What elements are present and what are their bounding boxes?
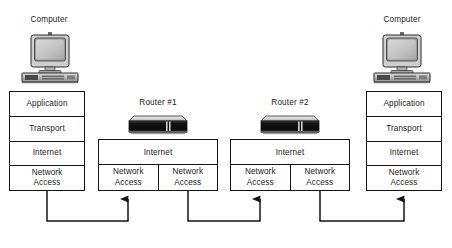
stack-a-layer-internet: Internet xyxy=(10,142,84,167)
router-1-internet-layer: Internet xyxy=(99,140,217,165)
router-2-network-access-right: Network Access xyxy=(291,165,350,190)
stack-a-layer-application: Application xyxy=(10,92,84,117)
router-1-network-access-right: Network Access xyxy=(159,165,218,190)
desktop-computer-icon xyxy=(20,32,80,84)
stack-computer-a: Application Transport Internet Network A… xyxy=(9,91,85,191)
router-icon xyxy=(260,111,320,135)
stack-router-2: Internet Network Access Network Access xyxy=(230,139,350,191)
stack-b-layer-network-access: Network Access xyxy=(367,166,441,190)
router-1-network-access-row: Network Access Network Access xyxy=(99,165,217,190)
stack-b-layer-transport: Transport xyxy=(367,117,441,142)
router-1-network-access-left: Network Access xyxy=(99,165,159,190)
router-1-caption: Router #1 xyxy=(123,98,193,109)
stack-router-1: Internet Network Access Network Access xyxy=(98,139,218,191)
desktop-computer-icon xyxy=(372,32,432,84)
stack-a-layer-transport: Transport xyxy=(10,117,84,142)
link-router2-to-b xyxy=(320,191,404,221)
router-2-internet-layer: Internet xyxy=(231,140,349,165)
link-a-to-router1 xyxy=(47,191,128,221)
link-router1-to-router2 xyxy=(188,191,260,221)
computer-b-caption-line1: Computer xyxy=(366,15,438,26)
computer-a-caption-line1: Computer xyxy=(13,15,85,26)
network-architecture-diagram: Computer A xyxy=(0,0,452,248)
router-2-caption: Router #2 xyxy=(255,98,325,109)
stack-a-layer-network-access: Network Access xyxy=(10,166,84,190)
stack-computer-b: Application Transport Internet Network A… xyxy=(366,91,442,191)
router-2-network-access-left: Network Access xyxy=(231,165,291,190)
router-icon xyxy=(128,111,188,135)
stack-b-layer-application: Application xyxy=(367,92,441,117)
stack-b-layer-internet: Internet xyxy=(367,142,441,167)
router-2-network-access-row: Network Access Network Access xyxy=(231,165,349,190)
